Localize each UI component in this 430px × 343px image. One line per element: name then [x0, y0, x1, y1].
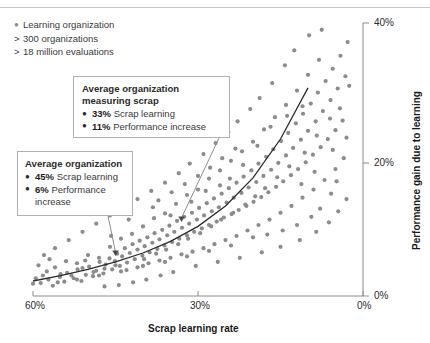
scatter-point: [195, 217, 199, 221]
scatter-point: [260, 250, 264, 254]
scatter-point: [256, 223, 260, 227]
scatter-point: [120, 254, 124, 258]
scatter-point: [306, 129, 310, 133]
scatter-point: [208, 166, 212, 170]
scatter-point: [215, 220, 219, 224]
scatter-point: [154, 252, 158, 256]
scatter-point: [335, 179, 339, 183]
scatter-point: [333, 128, 337, 132]
legend-label: 300 organizations: [23, 33, 98, 44]
scatter-point: [251, 200, 255, 204]
scatter-point: [298, 238, 302, 242]
scatter-point: [31, 282, 35, 286]
scatter-point: [278, 211, 282, 215]
scatter-point: [210, 209, 214, 213]
scatter-point: [39, 281, 43, 285]
scatter-point: [83, 258, 87, 262]
scatter-point: [205, 201, 209, 205]
callout-stat-label-continuation: increase: [25, 196, 126, 209]
scatter-point: [152, 216, 156, 220]
scatter-point: [190, 250, 194, 254]
scatter-point: [270, 81, 274, 85]
scatter-point: [143, 244, 147, 248]
legend-label: Learning organization: [23, 19, 114, 30]
scatter-point: [228, 177, 232, 181]
scatter-point: [41, 273, 45, 277]
scatter-point: [177, 171, 181, 175]
y-axis-title: Performance gain due to learning: [411, 91, 422, 250]
scatter-point: [242, 174, 246, 178]
legend-item-organizations: >300 organizations: [14, 32, 114, 46]
scatter-point: [251, 235, 255, 239]
legend-item-learning-organization: ●Learning organization: [14, 18, 114, 32]
scatter-point: [209, 224, 213, 228]
scatter-point: [258, 96, 262, 100]
scatter-point: [315, 134, 319, 138]
scatter-point: [294, 121, 298, 125]
scatter-point: [285, 114, 289, 118]
scatter-point: [118, 264, 122, 268]
scatter-point: [227, 186, 231, 190]
scatter-point: [107, 256, 111, 260]
scatter-point: [168, 256, 172, 260]
scatter-point: [163, 260, 167, 264]
scatter-point: [102, 267, 106, 271]
scatter-point: [174, 202, 178, 206]
scatter-point: [53, 246, 57, 250]
scatter-point: [196, 174, 200, 178]
scatter-point: [200, 226, 204, 230]
scatter-point: [217, 205, 221, 209]
scatter-point: [146, 261, 150, 265]
scatter-point: [187, 222, 191, 226]
scatter-point: [259, 195, 263, 199]
scatter-point: [150, 241, 154, 245]
scatter-point: [234, 181, 238, 185]
stat-label: Performance: [51, 184, 105, 195]
scatter-point: [289, 173, 293, 177]
scatter-point: [192, 230, 196, 234]
scatter-point: [45, 269, 49, 273]
scatter-point: [53, 265, 57, 269]
scatter-point: [344, 197, 348, 201]
scatter-point: [304, 160, 308, 164]
scatter-point: [316, 91, 320, 95]
scatter-point: [159, 273, 163, 277]
scatter-point: [212, 242, 216, 246]
scatter-point: [322, 178, 326, 182]
scatter-point: [160, 228, 164, 232]
scatter-point: [241, 163, 245, 167]
scatter-point: [234, 234, 238, 238]
greater-than-icon: >: [14, 32, 23, 46]
chart-container: ●Learning organization >300 organization…: [0, 0, 430, 343]
scatter-point: [299, 182, 303, 186]
scatter-point: [347, 84, 351, 88]
callout-stat-scrap-learning: ● 33% Scrap learning: [82, 108, 222, 121]
scatter-point: [299, 138, 303, 142]
scatter-point: [218, 168, 222, 172]
scatter-point: [292, 48, 296, 52]
scatter-point: [194, 264, 198, 268]
callout-stat-performance-increase: ● 6% Performance: [25, 184, 126, 197]
scatter-point: [344, 136, 348, 140]
stat-value: 45%: [35, 171, 54, 182]
scatter-point: [333, 167, 337, 171]
scatter-point: [309, 101, 313, 105]
scatter-point: [119, 237, 123, 241]
scatter-point: [80, 266, 84, 270]
scatter-point: [171, 270, 175, 274]
y-tick-label-20: 20%: [374, 157, 394, 168]
scatter-point: [97, 273, 101, 277]
scatter-point: [311, 153, 315, 157]
scatter-point: [254, 180, 258, 184]
scatter-point: [179, 252, 183, 256]
scatter-point: [133, 257, 137, 261]
scatter-point: [180, 226, 184, 230]
scatter-point: [128, 251, 132, 255]
scatter-point: [237, 208, 241, 212]
scatter-point: [343, 74, 347, 78]
scatter-point: [149, 189, 153, 193]
x-axis-title: Scrap learning rate: [148, 323, 239, 334]
scatter-point: [273, 115, 277, 119]
scatter-point: [287, 164, 291, 168]
scatter-point: [313, 170, 317, 174]
